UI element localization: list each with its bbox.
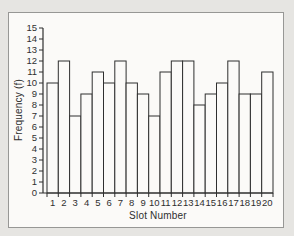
y-tick-label: 0 — [32, 187, 37, 198]
x-tick-label: 15 — [206, 197, 217, 208]
x-tick-label: 7 — [118, 197, 123, 208]
bar — [183, 61, 194, 193]
bar — [262, 72, 273, 193]
x-tick-label: 8 — [129, 197, 134, 208]
x-tick-label: 14 — [194, 197, 205, 208]
bar — [149, 116, 160, 193]
x-tick-label: 6 — [107, 197, 112, 208]
y-axis: 0123456789101112131415 — [26, 22, 43, 198]
x-tick-label: 10 — [149, 197, 160, 208]
y-tick-label: 3 — [32, 154, 37, 165]
bar — [205, 94, 216, 193]
y-tick-label: 14 — [26, 33, 37, 44]
y-tick-label: 9 — [32, 88, 37, 99]
x-tick-label: 2 — [61, 197, 66, 208]
bar — [171, 61, 182, 193]
frequency-histogram-chart: 0123456789101112131415 12345678910111213… — [9, 13, 283, 227]
x-tick-label: 5 — [95, 197, 100, 208]
y-tick-label: 10 — [26, 77, 37, 88]
bar — [81, 94, 92, 193]
scanned-page: 0123456789101112131415 12345678910111213… — [0, 0, 294, 236]
bar — [250, 94, 261, 193]
bar — [228, 61, 239, 193]
bar — [137, 94, 148, 193]
x-tick-label: 20 — [262, 197, 273, 208]
chart-frame: 0123456789101112131415 12345678910111213… — [8, 12, 284, 228]
bar — [194, 105, 205, 193]
bar — [126, 83, 137, 193]
x-axis-title: Slot Number — [43, 210, 273, 221]
x-tick-label: 4 — [84, 197, 89, 208]
bar — [58, 61, 69, 193]
bar — [160, 72, 171, 193]
y-tick-label: 4 — [32, 143, 37, 154]
y-tick-label: 15 — [26, 22, 37, 33]
y-tick-label: 12 — [26, 55, 37, 66]
bar — [239, 94, 250, 193]
y-tick-label: 1 — [32, 176, 37, 187]
bar — [104, 83, 115, 193]
y-tick-label: 5 — [32, 132, 37, 143]
bar — [70, 116, 81, 193]
x-tick-label: 12 — [172, 197, 183, 208]
y-tick-label: 8 — [32, 99, 37, 110]
bar — [47, 83, 58, 193]
x-tick-label: 3 — [73, 197, 78, 208]
bar — [217, 83, 228, 193]
x-tick-label: 19 — [251, 197, 262, 208]
y-tick-label: 7 — [32, 110, 37, 121]
x-tick-label: 13 — [183, 197, 194, 208]
x-tick-label: 16 — [217, 197, 228, 208]
y-tick-label: 11 — [27, 66, 37, 77]
bars — [47, 61, 273, 193]
x-tick-label: 1 — [50, 197, 55, 208]
bar — [115, 61, 126, 193]
y-tick-label: 2 — [32, 165, 37, 176]
x-tick-label: 11 — [161, 197, 171, 208]
x-tick-label: 9 — [140, 197, 145, 208]
y-tick-label: 6 — [32, 121, 37, 132]
x-axis: 1234567891011121314151617181920 — [43, 193, 273, 208]
x-tick-label: 17 — [228, 197, 239, 208]
bar — [92, 72, 103, 193]
x-tick-label: 18 — [239, 197, 250, 208]
y-tick-label: 13 — [26, 44, 37, 55]
y-axis-title: Frequency (f) — [13, 79, 24, 141]
